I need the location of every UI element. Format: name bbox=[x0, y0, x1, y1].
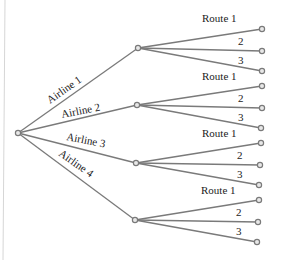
route-leaf-node bbox=[258, 140, 263, 145]
route-label: Route 1 bbox=[202, 70, 237, 82]
route-edge bbox=[137, 105, 262, 108]
route-leaf-node bbox=[256, 182, 261, 187]
route-leaf-node bbox=[259, 48, 264, 53]
route-label: 3 bbox=[236, 225, 242, 237]
left-border-line bbox=[3, 0, 5, 260]
route-leaf-node bbox=[258, 125, 263, 130]
route-label: Route 1 bbox=[201, 184, 236, 196]
route-leaf-node bbox=[254, 239, 259, 244]
route-label: 3 bbox=[238, 111, 244, 123]
route-edge bbox=[135, 220, 258, 222]
tree-labels: Airline 1Route 123Airline 2Route 123Airl… bbox=[44, 12, 244, 237]
route-label: Route 1 bbox=[202, 127, 237, 139]
route-label: 3 bbox=[238, 54, 244, 66]
route-edge bbox=[136, 163, 260, 165]
route-leaf-node bbox=[256, 197, 261, 202]
route-label: Route 1 bbox=[202, 12, 237, 24]
airline-edge bbox=[18, 133, 135, 220]
route-leaf-node bbox=[259, 105, 264, 110]
airline-route-tree-diagram: Airline 1Route 123Airline 2Route 123Airl… bbox=[0, 0, 281, 260]
airline-label: Airline 2 bbox=[60, 101, 101, 120]
route-label: 2 bbox=[237, 149, 243, 161]
route-label: 2 bbox=[238, 35, 244, 47]
root-node bbox=[15, 130, 20, 135]
route-leaf-node bbox=[259, 26, 264, 31]
route-leaf-node bbox=[259, 68, 264, 73]
route-leaf-node bbox=[257, 162, 262, 167]
airline-node bbox=[135, 45, 140, 50]
route-label: 3 bbox=[237, 168, 243, 180]
route-label: 2 bbox=[236, 206, 242, 218]
route-edge bbox=[138, 48, 262, 51]
airline-node bbox=[132, 217, 137, 222]
route-leaf-node bbox=[259, 83, 264, 88]
route-label: 2 bbox=[238, 92, 244, 104]
airline-node bbox=[134, 102, 139, 107]
airline-node bbox=[133, 160, 138, 165]
route-leaf-node bbox=[255, 219, 260, 224]
airline-edge bbox=[18, 48, 138, 133]
